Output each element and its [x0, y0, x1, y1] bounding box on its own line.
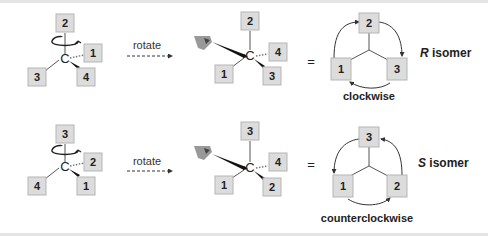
substituent-right: 4 — [275, 46, 282, 58]
substituent-top: 2 — [62, 17, 68, 29]
priority-cycle: 3 1 2 — [333, 127, 407, 205]
substituent-left: 4 — [34, 180, 41, 192]
isomer-label: R isomer — [420, 46, 472, 60]
substituent-top: 2 — [247, 15, 253, 27]
rotated-molecule: C 3 4 1 2 — [215, 122, 287, 196]
substituent-left: 1 — [221, 68, 227, 80]
direction-label: clockwise — [343, 90, 395, 102]
eye-icon — [194, 36, 212, 50]
substituent-wedge: 1 — [83, 180, 89, 192]
substituent-top: 3 — [247, 125, 253, 137]
row-s-isomer: C 3 2 4 1 rotate C 3 4 — [28, 122, 469, 224]
rotate-label: rotate — [133, 39, 161, 51]
carbon-atom: C — [60, 159, 69, 174]
cycle-top: 3 — [366, 131, 372, 143]
sight-arrow — [212, 42, 246, 58]
substituent-right: 1 — [90, 47, 96, 59]
substituent-top: 3 — [62, 128, 68, 140]
cycle-right: 3 — [394, 63, 400, 75]
carbon-atom: C — [245, 160, 254, 175]
cycle-right: 2 — [394, 180, 400, 192]
equals-sign: = — [307, 157, 315, 172]
cycle-top: 2 — [366, 17, 372, 29]
substituent-wedge: 4 — [83, 71, 90, 83]
direction-label: counterclockwise — [321, 212, 413, 224]
cycle-left: 1 — [338, 63, 344, 75]
row-r-isomer: C 2 1 3 4 rotate C 2 — [28, 12, 472, 102]
sight-arrow — [212, 154, 246, 170]
carbon-atom: C — [60, 51, 69, 66]
substituent-left: 1 — [221, 179, 227, 191]
isomer-label: S isomer — [418, 156, 469, 170]
substituent-wedge: 3 — [269, 70, 275, 82]
eye-icon — [194, 146, 212, 160]
substituent-left: 3 — [34, 71, 40, 83]
cycle-left: 1 — [340, 180, 346, 192]
substituent-wedge: 2 — [269, 181, 275, 193]
rotate-label: rotate — [133, 155, 161, 167]
substituent-right: 2 — [90, 156, 96, 168]
stereochemistry-diagram: C 2 1 3 4 rotate C 2 — [0, 0, 488, 236]
priority-cycle: 2 1 3 — [331, 13, 407, 88]
start-molecule: C 3 2 4 1 — [28, 125, 102, 195]
substituent-right: 4 — [275, 156, 282, 168]
equals-sign: = — [307, 54, 315, 69]
start-molecule: C 2 1 3 4 — [28, 14, 102, 86]
carbon-atom: C — [245, 48, 254, 63]
